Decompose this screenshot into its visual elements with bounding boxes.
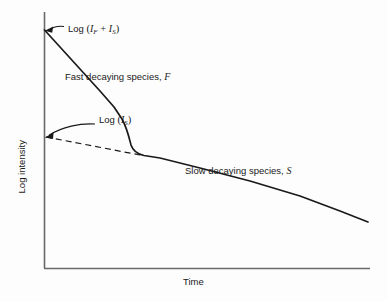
annotation-log-is: Log (IS) [99,115,131,127]
paren-close-total: ) [116,23,120,34]
slow-species-symbol: S [286,165,291,176]
x-axis-label: Time [183,277,204,287]
y-axis-label: Log intensity [17,127,27,207]
slow-component-extrapolation-dashed [46,137,140,155]
fast-species-symbol: F [164,71,170,82]
annotation-fast-decaying-species: Fast decaying species, F [65,72,170,82]
annotation-slow-decaying-species: Slow decaying species, S [185,166,291,176]
slow-species-text: Slow decaying species, [185,165,284,176]
log-prefix-slow: Log [99,114,115,125]
slow-intensity-leader-arrow [49,124,95,135]
figure-container: Log (IF + IS) Fast decaying species, F L… [0,0,387,301]
total-decay-curve [45,30,369,222]
log-prefix-total: Log [68,23,84,34]
annotation-log-if-plus-is: Log (IF + IS) [68,24,119,36]
decay-plot-svg [0,0,387,301]
paren-close-slow: ) [128,114,132,125]
slow-intensity-arrowhead [45,133,54,139]
fast-species-text: Fast decaying species, [65,71,162,82]
